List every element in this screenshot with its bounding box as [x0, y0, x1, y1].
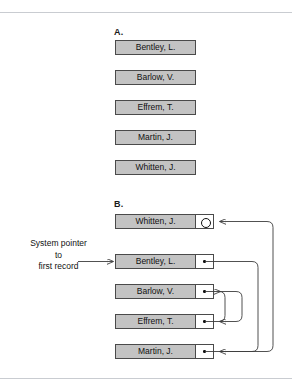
link-martin-to-whitten — [205, 222, 273, 352]
system-pointer-caption-line-2: to — [6, 250, 111, 262]
record-a-4: Martin, J. — [115, 130, 196, 145]
pointer-cell-link — [196, 284, 214, 299]
link-pointer-icon — [203, 260, 206, 263]
record-a-1: Bentley, L. — [115, 40, 196, 55]
record-b-effrem: Effrem, T. — [115, 314, 214, 329]
record-name: Bentley, L. — [115, 40, 196, 55]
pointer-cell-null — [196, 214, 214, 229]
system-pointer-caption-line-1: System pointer — [6, 238, 111, 250]
record-b-martin: Martin, J. — [115, 344, 214, 359]
link-arrows-overlay — [0, 0, 292, 388]
linked-list-figure: A. Bentley, L. Barlow, V. Effrem, T. Mar… — [0, 0, 292, 388]
record-name: Effrem, T. — [115, 100, 196, 115]
bottom-divider-rule — [0, 378, 292, 379]
record-b-bentley: Bentley, L. — [115, 254, 214, 269]
section-b-label: B. — [114, 199, 123, 209]
record-a-5: Whitten, J. — [115, 160, 196, 175]
record-name: Barlow, V. — [115, 284, 196, 299]
system-pointer-caption-line-3: first record — [6, 261, 111, 273]
record-name: Whitten, J. — [115, 214, 196, 229]
section-a-label: A. — [114, 27, 123, 37]
pointer-cell-link — [196, 344, 214, 359]
record-name: Whitten, J. — [115, 160, 196, 175]
record-b-barlow: Barlow, V. — [115, 284, 214, 299]
link-bentley-to-martin — [205, 262, 258, 352]
link-pointer-icon — [203, 290, 206, 293]
link-pointer-icon — [203, 350, 206, 353]
pointer-cell-link — [196, 254, 214, 269]
record-b-whitten: Whitten, J. — [115, 214, 214, 229]
system-pointer-caption: System pointer to first record — [6, 238, 111, 273]
link-pointer-icon — [203, 320, 206, 323]
record-name: Barlow, V. — [115, 70, 196, 85]
record-name: Bentley, L. — [115, 254, 196, 269]
pointer-cell-link — [196, 314, 214, 329]
record-name: Martin, J. — [115, 130, 196, 145]
record-name: Martin, J. — [115, 344, 196, 359]
record-name: Effrem, T. — [115, 314, 196, 329]
null-pointer-icon — [201, 218, 211, 228]
top-divider-rule — [0, 12, 292, 13]
record-a-3: Effrem, T. — [115, 100, 196, 115]
record-a-2: Barlow, V. — [115, 70, 196, 85]
